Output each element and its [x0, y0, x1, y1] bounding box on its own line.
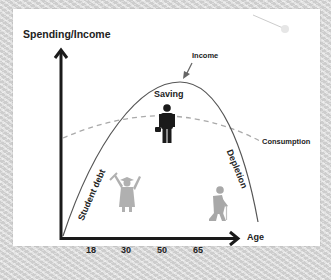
- income-label: Income: [192, 51, 218, 60]
- worker-with-briefcase-icon: [155, 104, 175, 143]
- decorative-spot: [281, 25, 289, 33]
- x-tick-18: 18: [86, 245, 96, 255]
- income-pointer-arrow: [183, 63, 192, 79]
- x-axis-label: Age: [247, 232, 264, 242]
- elderly-with-cane-icon: [209, 186, 228, 221]
- saving-label: Saving: [154, 89, 184, 99]
- x-tick-30: 30: [121, 245, 131, 255]
- x-axis: [60, 232, 238, 245]
- y-axis: [55, 50, 67, 240]
- y-axis-label: Spending/Income: [23, 28, 111, 40]
- graduate-icon: [110, 173, 141, 212]
- consumption-label: Consumption: [262, 137, 310, 146]
- x-tick-65: 65: [193, 245, 203, 255]
- decorative-stroke: [253, 15, 283, 28]
- x-tick-50: 50: [157, 245, 167, 255]
